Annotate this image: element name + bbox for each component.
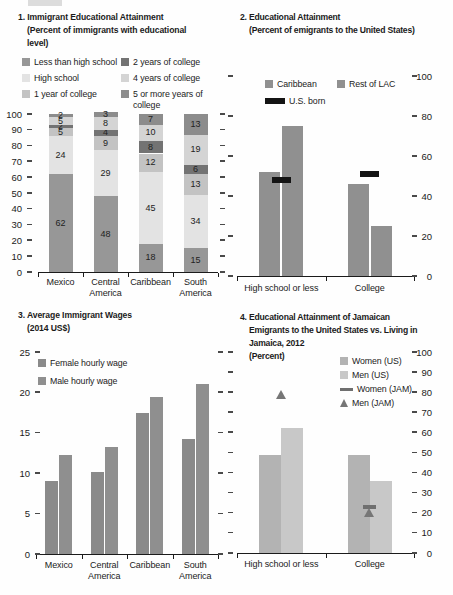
y-tick-dash	[35, 391, 40, 393]
y-tick-label: 40	[415, 191, 432, 202]
legend-item-1-year-college: 1 year of college	[22, 89, 97, 100]
bar-value-label: 45	[141, 204, 161, 213]
y-tick-label: 100	[415, 347, 432, 358]
bar-value-label: 24	[51, 151, 71, 160]
y-tick-label: 0	[415, 271, 432, 282]
bar-value-label: 9	[96, 139, 116, 148]
y-tick-dash-opposite	[228, 115, 233, 117]
x-axis-tick	[173, 555, 174, 559]
legend-label: 4 years of college	[133, 73, 200, 84]
legend-swatch-icon	[340, 357, 348, 365]
y-tick-label: 60	[415, 427, 432, 438]
y-tick-dash	[27, 255, 32, 257]
y-tick-dash-opposite	[218, 351, 223, 353]
bar	[282, 126, 303, 276]
y-tick-label: 40	[0, 203, 22, 214]
legend-label: 5 or more years of college	[133, 89, 217, 111]
four-panel-figure: 1. Immigrant Educational Attainment (Per…	[0, 0, 453, 595]
bar	[348, 184, 369, 276]
legend-item-caribbean: Caribbean	[265, 79, 317, 90]
legend-swatch-icon	[121, 74, 129, 82]
legend-swatch-icon	[121, 90, 129, 98]
y-tick-dash-opposite	[220, 129, 225, 131]
bar-value-label: 13	[186, 180, 206, 189]
y-tick-dash-opposite	[228, 195, 233, 197]
x-axis-tick	[36, 555, 37, 559]
bar	[150, 397, 163, 554]
y-tick-dash-opposite	[218, 553, 223, 555]
y-tick-dash-opposite	[220, 160, 225, 162]
bar	[182, 439, 195, 554]
y-tick-dash-opposite	[228, 351, 233, 353]
y-tick-dash	[27, 208, 32, 210]
y-tick-dash-opposite	[220, 255, 225, 257]
legend-swatch-icon	[38, 359, 46, 367]
panel3-title: 3. Average Immigrant Wages (2014 US$)	[18, 309, 132, 335]
legend-label: Female hourly wage	[50, 358, 127, 369]
y-tick-dash	[35, 513, 40, 515]
y-tick-label: 80	[415, 111, 432, 122]
legend-item-women-jam: Women (JAM)	[340, 384, 412, 395]
x-category-label: SouthAmerica	[165, 560, 225, 581]
y-tick-label: 50	[0, 188, 22, 199]
y-tick-dash	[27, 113, 32, 115]
y-tick-label: 5	[0, 508, 30, 519]
y-tick-dash-opposite	[220, 208, 225, 210]
y-tick-dash	[27, 271, 32, 273]
x-axis-tick	[127, 555, 128, 559]
bar	[45, 481, 58, 554]
bar-value-label: 34	[186, 217, 206, 226]
legend-label: Less than high school	[34, 57, 117, 68]
y-tick-label: 15	[0, 427, 30, 438]
bar-value-label: 10	[141, 128, 161, 137]
y-tick-dash-opposite	[220, 176, 225, 178]
bar	[259, 172, 280, 276]
legend-swatch-icon	[340, 371, 348, 379]
legend-label: Rest of LAC	[349, 79, 395, 90]
legend-item-less-than-high-school: Less than high school	[22, 57, 117, 68]
y-tick-label: 10	[415, 527, 432, 538]
y-tick-dash-opposite	[218, 513, 223, 515]
y-tick-dash-opposite	[228, 492, 233, 494]
panel4-title-line: 4. Educational Attainment of Jamaican	[240, 311, 417, 324]
panel1-title-line: (Percent of immigrants with educational	[27, 24, 186, 37]
legend-item-women-us: Women (US)	[340, 356, 402, 367]
panel1-title-line: 1. Immigrant Educational Attainment	[18, 11, 186, 24]
y-tick-dash-opposite	[228, 75, 233, 77]
legend-item-men-us: Men (US)	[340, 370, 389, 381]
legend-swatch-icon	[22, 90, 30, 98]
legend-dash-icon	[265, 98, 285, 104]
y-tick-dash-opposite	[228, 235, 233, 237]
bar-value-label: 19	[186, 145, 206, 154]
y-tick-dash-opposite	[228, 431, 233, 433]
panel1-title-line: level)	[27, 37, 186, 50]
y-tick-label: 90	[0, 124, 22, 135]
legend-label: 2 years of college	[133, 57, 200, 68]
y-tick-label: 100	[415, 71, 432, 82]
bar-value-label: 12	[141, 158, 161, 167]
legend-label: 1 year of college	[34, 89, 97, 100]
y-tick-label: 0	[415, 548, 432, 559]
panel2-title-line: (Percent of emigrants to the United Stat…	[249, 24, 415, 37]
legend-label: Caribbean	[277, 79, 317, 90]
legend-item-high-school: High school	[22, 73, 79, 84]
y-tick-dash	[27, 145, 32, 147]
y-tick-dash	[35, 553, 40, 555]
y-tick-dash	[27, 239, 32, 241]
bar	[348, 455, 370, 553]
bar	[59, 455, 72, 554]
legend-label: Women (JAM)	[357, 384, 412, 395]
x-axis-tick	[326, 554, 327, 558]
y-tick-dash-opposite	[228, 371, 233, 373]
bar-value-label: 29	[96, 169, 116, 178]
legend-dash-icon	[340, 388, 353, 392]
legend-item-rest-of-lac: Rest of LAC	[337, 79, 395, 90]
y-tick-label: 80	[415, 387, 432, 398]
legend-item-female-hourly-wage: Female hourly wage	[38, 358, 127, 369]
legend-label: High school	[34, 73, 79, 84]
legend-swatch-icon	[22, 74, 30, 82]
cropped-edge-artifact	[28, 0, 62, 6]
panel2-title-line: 2. Educational Attainment	[240, 11, 415, 24]
y-tick-dash-opposite	[228, 411, 233, 413]
y-tick-label: 30	[0, 219, 22, 230]
